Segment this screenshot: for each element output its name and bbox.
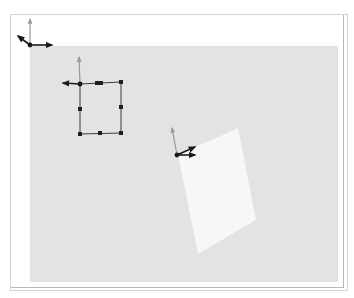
- vertex-handle[interactable]: [99, 81, 103, 85]
- vertex-handle[interactable]: [119, 131, 123, 135]
- vertex-handle[interactable]: [119, 105, 123, 109]
- vertex-handle[interactable]: [95, 81, 99, 85]
- 3d-scene-view: [0, 0, 354, 298]
- gizmo-origin-handle[interactable]: [78, 82, 83, 87]
- vertex-handle[interactable]: [98, 131, 102, 135]
- vertex-handle[interactable]: [78, 132, 82, 136]
- x-axis-arrow-icon[interactable]: [63, 83, 80, 84]
- world-origin-gizmo[interactable]: [18, 19, 52, 47]
- scene-canvas[interactable]: [0, 0, 354, 298]
- gizmo-origin-handle[interactable]: [28, 43, 33, 48]
- vertex-handle[interactable]: [78, 107, 82, 111]
- gizmo-origin-handle[interactable]: [175, 153, 180, 158]
- vertex-handle[interactable]: [119, 80, 123, 84]
